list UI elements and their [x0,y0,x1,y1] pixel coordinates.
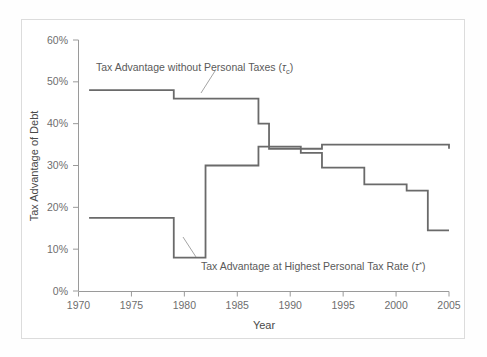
x-tick-label: 2000 [384,299,408,311]
series-label-tau-c-close: ) [290,61,294,73]
x-tick-label: 1975 [120,299,144,311]
axis-lines [79,40,450,292]
x-tick-label: 2005 [437,299,461,311]
x-tick-label: 1980 [173,299,197,311]
y-tick-label: 10% [47,243,68,255]
series-label-tau-c-text: Tax Advantage without Personal Taxes ( [96,61,283,73]
lower-leader-line [183,237,196,257]
x-tick-label: 1990 [279,299,303,311]
x-tick-label: 1995 [331,299,355,311]
y-tick-label: 50% [47,75,68,87]
chart-figure: 0%10%20%30%40%50%60% 1970197519801985199… [0,0,487,357]
series-label-tau-star-close: ) [422,260,426,272]
series-label-tau-c: Tax Advantage without Personal Taxes (τc… [96,61,293,76]
x-tick-label: 1985 [226,299,250,311]
series-label-tau-star-text: Tax Advantage at Highest Personal Tax Ra… [201,260,416,272]
y-tick-label: 30% [47,159,68,171]
x-axis-title: Year [253,319,276,331]
series-line-tau-c [89,90,449,149]
y-axis-title: Tax Advantage of Debt [28,111,40,222]
y-tick-label: 60% [47,34,68,46]
series-line-tau-star [89,147,449,258]
x-tick-label: 1970 [67,299,91,311]
upper-leader-line [201,71,215,93]
y-axis-ticks: 0%10%20%30%40%50%60% [47,34,79,297]
chart-plot: 0%10%20%30%40%50%60% 1970197519801985199… [0,0,487,357]
y-tick-label: 20% [47,201,68,213]
series-label-tau-star: Tax Advantage at Highest Personal Tax Ra… [201,260,426,272]
y-tick-label: 40% [47,117,68,129]
data-series-group [89,90,449,257]
y-tick-label: 0% [53,285,68,297]
x-axis-ticks: 19701975198019851990199520002005 [67,292,461,312]
